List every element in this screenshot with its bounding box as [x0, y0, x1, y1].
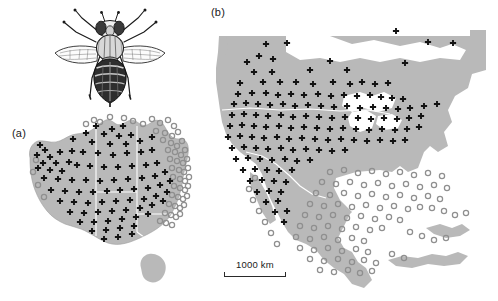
open-circle-marker [439, 173, 444, 178]
open-circle-marker [425, 170, 430, 175]
scale-bar: 1000 km [224, 259, 286, 277]
open-circle-marker [444, 185, 449, 190]
open-circle-marker [353, 246, 358, 251]
open-circle-marker [437, 196, 442, 201]
cross-marker [252, 166, 258, 172]
open-circle-marker [349, 235, 354, 240]
open-circle-marker [373, 260, 378, 265]
open-circle-marker [367, 227, 372, 232]
open-circle-marker [297, 245, 302, 250]
open-circle-marker [250, 197, 255, 202]
open-circle-marker [407, 229, 412, 234]
open-circle-marker [317, 267, 322, 272]
open-circle-marker [246, 186, 251, 191]
open-circle-marker [379, 225, 384, 230]
open-circle-marker [353, 224, 358, 229]
open-circle-marker [365, 249, 370, 254]
open-circle-marker [256, 208, 261, 213]
north-america-landmass [216, 30, 486, 288]
north-america-distribution-map [0, 0, 498, 301]
open-circle-marker [452, 212, 457, 217]
open-circle-marker [268, 230, 273, 235]
open-circle-marker [361, 257, 366, 262]
figure-container: (a) (b) [0, 0, 498, 301]
open-circle-marker [369, 268, 374, 273]
scale-bar-label: 1000 km [224, 259, 286, 270]
open-circle-marker [411, 172, 416, 177]
open-circle-marker [274, 241, 279, 246]
scale-bar-line [224, 272, 286, 277]
open-circle-marker [361, 238, 366, 243]
open-circle-marker [431, 182, 436, 187]
open-circle-marker [389, 251, 394, 256]
open-circle-marker [331, 269, 336, 274]
cross-marker [240, 167, 246, 173]
open-circle-marker [431, 237, 436, 242]
open-circle-marker [307, 256, 312, 261]
open-circle-marker [441, 208, 446, 213]
cross-marker [233, 156, 239, 162]
open-circle-marker [419, 233, 424, 238]
open-circle-marker [262, 219, 267, 224]
open-circle-marker [463, 210, 468, 215]
cross-marker [393, 28, 399, 34]
